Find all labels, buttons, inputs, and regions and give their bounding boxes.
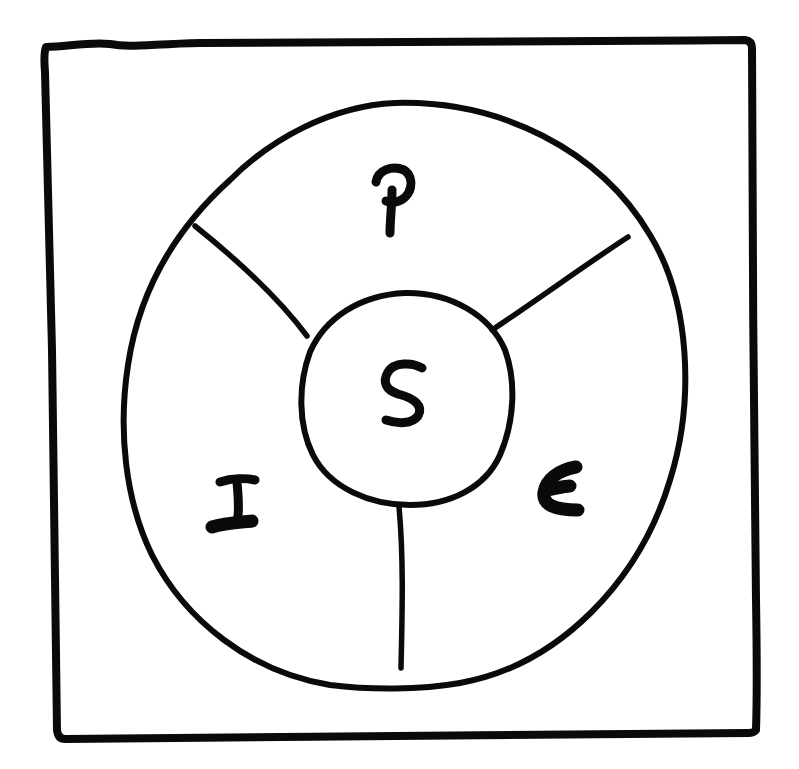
spoke-upper-left xyxy=(195,226,307,336)
label-p-glyph xyxy=(376,168,411,233)
spoke-bottom xyxy=(399,507,402,668)
label-i-glyph xyxy=(212,479,255,527)
diagram-canvas xyxy=(0,0,799,769)
spoke-upper-right xyxy=(492,237,628,330)
label-e-glyph xyxy=(544,467,578,510)
label-s-glyph xyxy=(385,364,422,423)
